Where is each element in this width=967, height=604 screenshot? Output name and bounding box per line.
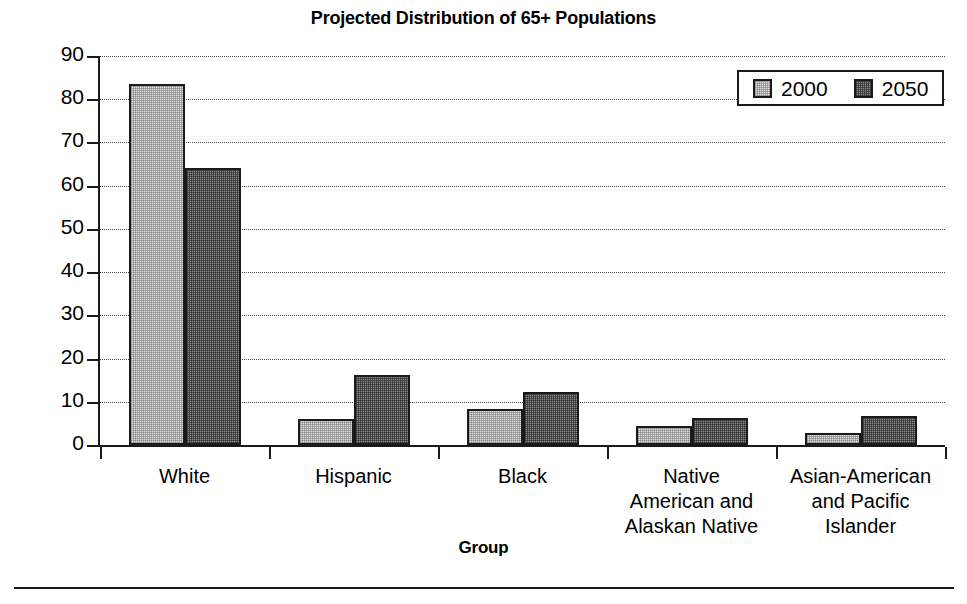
light-dotted-swatch — [753, 79, 772, 98]
y-axis-tick-mark — [87, 445, 98, 447]
bar-2050-2 — [354, 375, 410, 445]
bar-2050-3 — [523, 392, 579, 445]
y-axis-tick-label: 70 — [61, 129, 84, 150]
legend-entry-2050: 2050 — [854, 78, 929, 99]
bar-2000-1 — [129, 84, 185, 445]
y-axis-tick-label: 10 — [61, 389, 84, 410]
x-axis-category-label: White — [100, 464, 269, 489]
x-axis-category-label: Black — [438, 464, 607, 489]
bar-2000-5 — [805, 433, 861, 445]
legend-label: 2050 — [882, 78, 929, 99]
chart-legend: 20002050 — [737, 70, 944, 106]
y-axis-tick-label: 50 — [61, 216, 84, 237]
legend-label: 2000 — [781, 78, 828, 99]
bars-layer — [100, 56, 945, 445]
y-axis-tick-mark — [87, 142, 98, 144]
y-axis-tick-label: 80 — [61, 86, 84, 107]
x-axis-category-label: Native American and Alaskan Native — [607, 464, 776, 539]
y-axis-tick-mark — [87, 272, 98, 274]
y-axis-tick-label: 20 — [61, 346, 84, 367]
bar-2000-4 — [636, 426, 692, 445]
x-axis-tick-mark — [438, 447, 440, 459]
y-axis-tick-mark — [87, 99, 98, 101]
x-axis-category-label: Hispanic — [269, 464, 438, 489]
plot-area: 0102030405060708090 WhiteHispanicBlackNa… — [98, 56, 945, 447]
x-axis-title: Group — [0, 538, 967, 558]
x-axis-category-label: Asian-American and Pacific Islander — [776, 464, 945, 539]
x-axis-tick-mark — [776, 447, 778, 459]
legend-entry-2000: 2000 — [753, 78, 828, 99]
x-axis-tick-mark — [269, 447, 271, 459]
bar-2000-2 — [298, 419, 354, 445]
footer-divider — [14, 587, 954, 589]
x-axis-tick-mark — [607, 447, 609, 459]
x-axis-tick-mark — [945, 447, 947, 459]
bar-2050-5 — [861, 416, 917, 445]
chart-title: Projected Distribution of 65+ Population… — [0, 8, 967, 29]
bar-2050-4 — [692, 418, 748, 445]
dark-dotted-swatch — [854, 79, 873, 98]
y-axis-tick-mark — [87, 229, 98, 231]
x-axis-tick-mark — [100, 447, 102, 459]
y-axis-tick-label: 90 — [61, 43, 84, 64]
y-axis-tick-label: 30 — [61, 302, 84, 323]
y-axis-tick-label: 0 — [72, 432, 84, 453]
x-axis-line — [98, 445, 945, 447]
y-axis-tick-mark — [87, 56, 98, 58]
chart-figure: Projected Distribution of 65+ Population… — [0, 0, 967, 604]
y-axis-tick-mark — [87, 315, 98, 317]
bar-2050-1 — [185, 168, 241, 445]
y-axis-tick-label: 60 — [61, 173, 84, 194]
bar-2000-3 — [467, 409, 523, 445]
y-axis-tick-mark — [87, 402, 98, 404]
y-axis-tick-mark — [87, 186, 98, 188]
y-axis-tick-mark — [87, 359, 98, 361]
y-axis-tick-label: 40 — [61, 259, 84, 280]
